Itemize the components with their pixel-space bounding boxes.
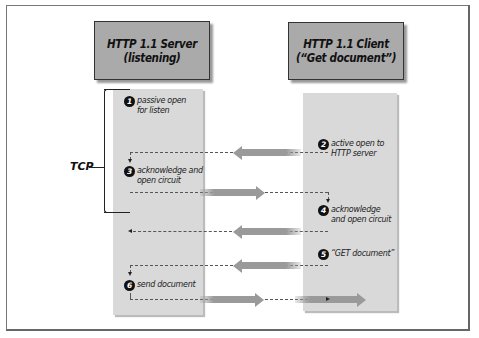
tcp-bracket-bottom [104,212,130,213]
client-title: HTTP 1.1 Client [303,37,389,51]
arrow-3-head [256,186,265,200]
step-3: 3 acknowledge and open circuit [124,166,203,185]
server-title: HTTP 1.1 Server [107,37,197,51]
arrow-5-shaft [241,262,301,269]
step-text: acknowledge [331,205,391,215]
step-number-badge: 4 [318,205,329,216]
client-lane [303,93,397,311]
arrow-4-tip [128,229,132,233]
step-number-badge: 3 [124,166,135,177]
arrow-4-head [233,225,242,239]
step-text: active open to [331,139,384,149]
step-2: 2 active open to HTTP server [318,139,384,158]
server-header-box: HTTP 1.1 Server (listening) [94,21,210,80]
step-text: acknowledge and [137,166,203,176]
step-1: 1 passive open for listen [124,96,186,115]
arrow-2-tip [128,159,132,163]
step-text: passive open [137,96,186,106]
step-text: “GET document” [331,249,394,259]
step-number-badge: 2 [318,139,329,150]
step-text: open circuit [137,176,203,186]
arrow-3-shaft [200,189,256,196]
arrow-6-client-head [357,293,366,307]
tcp-bracket-top [104,89,130,90]
step-6: 6 send document [124,280,195,291]
step-number-badge: 6 [124,280,135,291]
server-subtitle: (listening) [123,51,180,65]
arrow-3-tip [326,199,330,203]
client-subtitle: (“Get document”) [296,51,396,65]
tcp-connector-line [89,167,104,168]
arrow-6-shaft [200,296,255,303]
arrow-6-head [255,293,264,307]
step-text: and open circuit [331,215,391,225]
step-number-badge: 1 [124,96,135,107]
step-text: for listen [137,106,186,116]
arrow-2-shaft [241,149,301,156]
client-header-box: HTTP 1.1 Client (“Get document”) [288,22,404,80]
arrow-2-head [233,146,242,160]
step-text: HTTP server [331,149,384,159]
arrow-5-head [233,259,242,273]
tcp-bracket [104,89,113,213]
step-4: 4 acknowledge and open circuit [318,205,391,224]
arrow-5-tip [128,272,132,276]
step-text: send document [137,280,195,290]
step-number-badge: 5 [318,249,329,260]
step-5: 5 “GET document” [318,249,394,260]
arrow-4-shaft [241,228,301,235]
arrow-6-tip [326,297,330,301]
